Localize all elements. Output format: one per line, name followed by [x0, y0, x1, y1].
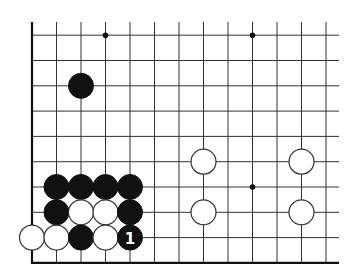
star-point-icon: [250, 32, 256, 38]
black-stone[interactable]: [44, 200, 69, 225]
black-stone-icon: [44, 200, 69, 225]
black-stone-icon: [118, 175, 143, 200]
white-stone-icon: [93, 225, 118, 250]
star-point-icon: [250, 184, 256, 190]
white-stone[interactable]: [69, 200, 94, 225]
black-stone[interactable]: [44, 175, 69, 200]
white-stone[interactable]: [44, 225, 69, 250]
black-stone[interactable]: [69, 73, 94, 98]
white-stone-icon: [191, 200, 216, 225]
black-stone[interactable]: [69, 225, 94, 250]
white-stone-icon: [289, 149, 314, 174]
white-stone-icon: [289, 200, 314, 225]
white-stone[interactable]: [289, 149, 314, 174]
black-stone[interactable]: [118, 200, 143, 225]
white-stone-icon: [69, 200, 94, 225]
white-stone-icon: [20, 225, 45, 250]
go-board[interactable]: 1: [0, 0, 357, 280]
white-stone[interactable]: [93, 200, 118, 225]
black-stone[interactable]: [69, 175, 94, 200]
black-stone-icon: [69, 175, 94, 200]
move-number-label: 1: [125, 230, 135, 248]
star-point-icon: [103, 32, 109, 38]
white-stone[interactable]: [93, 225, 118, 250]
black-stone[interactable]: [93, 175, 118, 200]
white-stone-icon: [191, 149, 216, 174]
black-stone-icon: [69, 73, 94, 98]
white-stone[interactable]: [191, 149, 216, 174]
white-stone-icon: [93, 200, 118, 225]
black-stone-icon: [44, 175, 69, 200]
white-stone-icon: [44, 225, 69, 250]
white-stone[interactable]: [289, 200, 314, 225]
white-stone[interactable]: [20, 225, 45, 250]
black-stone-icon: [69, 225, 94, 250]
white-stone[interactable]: [191, 200, 216, 225]
black-stone-icon: [118, 200, 143, 225]
black-stone-icon: [93, 175, 118, 200]
black-stone[interactable]: 1: [118, 225, 143, 250]
black-stone[interactable]: [118, 175, 143, 200]
